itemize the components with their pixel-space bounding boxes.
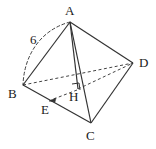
- edge-bc: [23, 85, 91, 123]
- vertex-label-d: D: [139, 56, 148, 69]
- figure-canvas: [0, 0, 156, 149]
- vertex-label-e: E: [41, 103, 49, 116]
- edge-bd-dashed: [23, 63, 133, 85]
- vertex-label-c: C: [86, 129, 95, 142]
- edge-cd: [91, 63, 133, 123]
- edge-ad: [70, 22, 133, 63]
- vertex-label-a: A: [65, 4, 74, 17]
- edge-hd-dashed: [78, 63, 133, 89]
- measure-label-ab: 6: [30, 33, 37, 46]
- geometry-figure: A B C D H E 6: [0, 0, 156, 149]
- vertex-label-b: B: [8, 87, 17, 100]
- vertex-label-h: H: [69, 90, 78, 103]
